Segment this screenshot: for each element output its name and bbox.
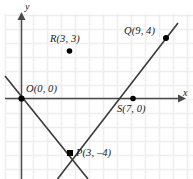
point-O xyxy=(18,95,24,101)
point-label-Q: Q(9, 4) xyxy=(124,26,155,37)
x-axis-label: x xyxy=(183,88,187,98)
point-label-R: R(3, 3) xyxy=(50,34,80,45)
point-label-S: S(7, 0) xyxy=(117,104,146,115)
point-R xyxy=(67,48,73,54)
point-label-P: P(3, –4) xyxy=(76,148,111,159)
point-label-O: O(0, 0) xyxy=(26,84,57,95)
point-S xyxy=(130,96,136,102)
coordinate-plane-figure: x y O(0, 0) R(3, 3) Q(9, 4) S(7, 0) P(3,… xyxy=(0,0,193,179)
point-P xyxy=(67,150,73,156)
y-axis-label: y xyxy=(25,2,29,12)
point-Q xyxy=(163,35,169,41)
